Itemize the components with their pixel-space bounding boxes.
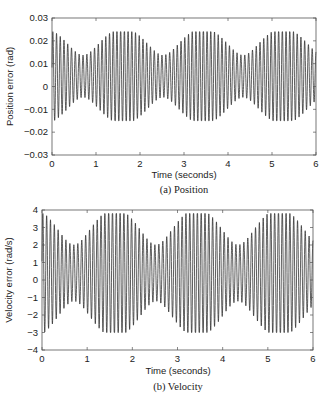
x-tick-label: 1 — [85, 353, 90, 364]
y-axis-label: Position error (rad) — [4, 47, 15, 126]
x-tick-label: 6 — [313, 158, 318, 169]
x-tick-label: 3 — [181, 158, 186, 169]
y-tick-label: −0.01 — [24, 104, 48, 115]
x-tick-label: 6 — [310, 353, 315, 364]
figure-caption: (b) Velocity — [153, 381, 203, 393]
y-axis-label: Velocity error (rad/s) — [3, 237, 14, 323]
y-tick-label: 0.03 — [30, 12, 49, 23]
y-tick-label: 4 — [33, 204, 38, 215]
x-tick-label: 4 — [225, 158, 230, 169]
y-tick-label: 0.02 — [30, 35, 49, 46]
x-tick-label: 5 — [265, 353, 270, 364]
y-tick-label: 0.01 — [30, 58, 49, 69]
y-tick-label: 2 — [33, 239, 38, 250]
figure: 0123456−0.03−0.02−0.0100.010.020.03Time … — [0, 0, 330, 400]
y-tick-label: −1 — [27, 292, 38, 303]
x-tick-label: 3 — [175, 353, 180, 364]
x-axis-label: Time (seconds) — [151, 169, 216, 180]
x-tick-label: 0 — [39, 353, 44, 364]
x-tick-label: 5 — [269, 158, 274, 169]
series-line — [42, 214, 313, 333]
y-tick-label: 0 — [43, 81, 48, 92]
y-tick-label: −3 — [27, 327, 38, 338]
y-tick-label: −0.02 — [24, 126, 48, 137]
velocity-error-chart: 0123456−4−3−2−101234Time (seconds)Veloci… — [3, 204, 316, 393]
x-tick-label: 4 — [220, 353, 225, 364]
figure-caption: (a) Position — [160, 184, 209, 196]
y-tick-label: 3 — [33, 222, 38, 233]
y-tick-label: 0 — [33, 274, 38, 285]
position-error-chart: 0123456−0.03−0.02−0.0100.010.020.03Time … — [4, 12, 319, 196]
y-tick-label: −2 — [27, 309, 38, 320]
x-tick-label: 2 — [137, 158, 142, 169]
y-tick-label: −0.03 — [24, 149, 48, 160]
x-tick-label: 1 — [93, 158, 98, 169]
y-tick-label: −4 — [27, 344, 38, 355]
series-line — [52, 32, 316, 121]
x-tick-label: 2 — [130, 353, 135, 364]
x-axis-label: Time (seconds) — [145, 365, 210, 376]
x-tick-label: 0 — [49, 158, 54, 169]
y-tick-label: 1 — [33, 257, 38, 268]
